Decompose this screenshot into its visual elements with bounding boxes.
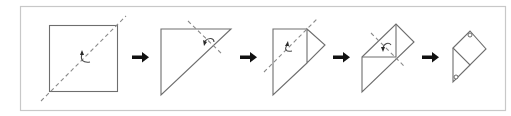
- diagonal-fold-line: [371, 33, 405, 67]
- step-1-square: [41, 16, 126, 101]
- shape-outline: [362, 24, 414, 92]
- diagonal-fold-line: [264, 19, 317, 72]
- triangle-outline: [161, 29, 231, 95]
- step-5-final: [453, 31, 486, 82]
- step-2-triangle: [161, 21, 231, 95]
- fold-direction-icon: [285, 41, 292, 51]
- step-arrow-icon: [132, 52, 149, 63]
- bottom-marker-icon: [454, 75, 458, 79]
- top-marker-icon: [468, 33, 472, 37]
- step-arrow-icon: [422, 52, 439, 63]
- corner-fold-line: [188, 21, 222, 54]
- step-3-flap: [264, 19, 325, 95]
- shape-outline: [273, 29, 307, 95]
- folded-flap: [307, 29, 325, 63]
- step-arrow-icon: [240, 52, 257, 63]
- folding-diagram: [0, 0, 511, 116]
- diagonal-fold-line: [41, 16, 126, 101]
- step-4-kite: [362, 24, 414, 92]
- step-arrow-icon: [333, 52, 350, 63]
- fold-direction-icon: [203, 38, 214, 46]
